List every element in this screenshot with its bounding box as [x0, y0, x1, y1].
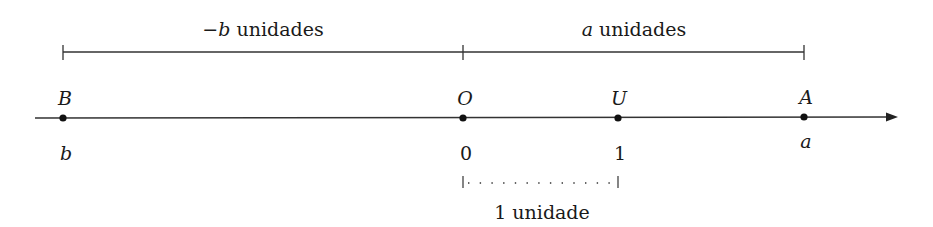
point-value: 1 [614, 142, 626, 164]
positive-bracket-label: a unidades [582, 18, 687, 40]
point-dot [59, 114, 66, 121]
point-value: b [60, 142, 72, 164]
point-U: U 1 [611, 87, 628, 164]
arrow-head-icon [886, 113, 898, 122]
top-brackets: −b unidades a unidades [63, 18, 804, 60]
unit-label: 1 unidade [494, 201, 590, 223]
point-value: 0 [460, 142, 472, 164]
number-line-diagram: −b unidades a unidades B b O 0 U 1 A a 1… [0, 0, 933, 227]
point-A: A a [797, 86, 813, 152]
point-name: B [57, 87, 72, 109]
point-dot [800, 113, 807, 120]
point-name: O [457, 87, 473, 109]
point-O: O 0 [457, 87, 473, 164]
unit-bracket: 1 unidade [463, 176, 618, 223]
axis [35, 113, 898, 122]
point-name: A [797, 86, 813, 108]
point-value: a [800, 130, 811, 152]
point-B: B b [57, 87, 72, 164]
point-dot [614, 114, 621, 121]
point-dot [459, 114, 466, 121]
negative-bracket-label: −b unidades [202, 18, 323, 40]
point-name: U [611, 87, 628, 109]
